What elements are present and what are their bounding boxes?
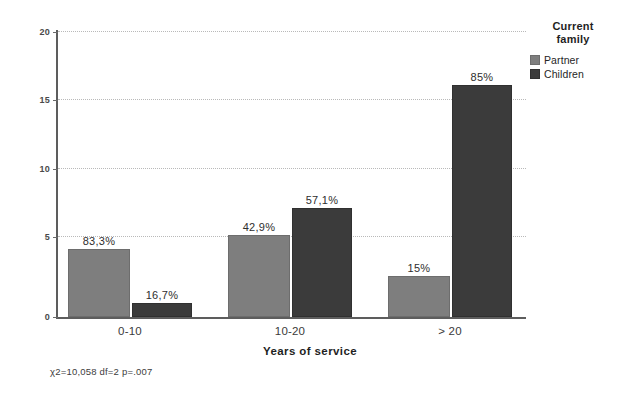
- x-axis-title: Years of service: [0, 345, 620, 357]
- y-tick-label-20: 20: [40, 27, 50, 37]
- legend-label-partner: Partner: [544, 54, 579, 66]
- y-tick-mark-10: [53, 169, 58, 170]
- legend-title-line1: Current: [552, 20, 593, 32]
- legend-title: Current family: [530, 20, 616, 45]
- y-tick-mark-20: [53, 32, 58, 33]
- gridline-20: 20: [58, 31, 526, 33]
- y-tick-label-10: 10: [40, 164, 50, 174]
- bar-partner-10-20: 42,9%: [228, 235, 290, 317]
- bar-value-partner-10-20: 42,9%: [243, 221, 276, 233]
- legend-label-children: Children: [544, 68, 584, 80]
- x-tick-label-0-10: 0-10: [118, 325, 142, 337]
- gridline-0: 0: [58, 317, 526, 318]
- bar-value-children-0-10: 16,7%: [146, 289, 179, 301]
- y-tick-label-0: 0: [45, 312, 50, 322]
- legend-swatch-children-icon: [530, 69, 540, 79]
- bar-value-partner-0-10: 83,3%: [83, 235, 116, 247]
- statistics-footnote: χ2=10,058 df=2 p=.007: [50, 366, 152, 377]
- bar-children-over-20: 85%: [452, 85, 512, 317]
- legend: Current family Partner Children: [530, 20, 616, 82]
- bar-partner-0-10: 83,3%: [68, 249, 130, 317]
- bar-partner-over-20: 15%: [388, 276, 450, 317]
- bar-value-children-over-20: 85%: [471, 71, 494, 83]
- legend-item-partner[interactable]: Partner: [530, 54, 616, 66]
- y-tick-label-15: 15: [40, 95, 50, 105]
- y-axis-line: [56, 30, 58, 319]
- plot-area: 20 15 10 5 0 83,3% 16,7% 42,9% 5: [56, 30, 526, 319]
- bar-children-10-20: 57,1%: [292, 208, 352, 317]
- legend-items: Partner Children: [530, 54, 616, 80]
- y-tick-mark-15: [53, 100, 58, 101]
- bar-children-0-10: 16,7%: [132, 303, 192, 317]
- bar-value-partner-over-20: 15%: [408, 262, 431, 274]
- y-tick-label-5: 5: [45, 232, 50, 242]
- legend-item-children[interactable]: Children: [530, 68, 616, 80]
- bar-chart: 20 15 10 5 0 83,3% 16,7% 42,9% 5: [0, 0, 620, 402]
- y-tick-mark-0: [53, 317, 58, 318]
- x-tick-label-10-20: 10-20: [275, 325, 305, 337]
- x-tick-label-over-20: > 20: [438, 325, 462, 337]
- bar-value-children-10-20: 57,1%: [306, 194, 339, 206]
- legend-swatch-partner-icon: [530, 55, 540, 65]
- legend-title-line2: family: [530, 33, 616, 46]
- y-tick-mark-5: [53, 237, 58, 238]
